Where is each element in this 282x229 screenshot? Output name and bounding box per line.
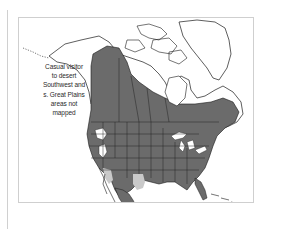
annotation-line: to desert (37, 71, 90, 80)
range-area-secondary-texas (133, 174, 145, 190)
range-map-frame: Casual visitor to desert Southwest and s… (18, 17, 254, 203)
annotation-line: areas not (37, 99, 90, 108)
aleutian-islands (23, 48, 49, 58)
page-divider-line (7, 10, 8, 229)
florida (195, 178, 207, 200)
annotation-line: Casual visitor (37, 62, 90, 71)
annotation-line: mapped (37, 108, 90, 117)
casual-visitor-annotation: Casual visitor to desert Southwest and s… (37, 62, 90, 117)
annotation-line: s. Great Plains (37, 90, 90, 99)
annotation-line: Southwest and (37, 80, 90, 89)
greenland-outline (179, 20, 231, 80)
arctic-islands-outline (125, 24, 187, 64)
caribbean-islands (211, 194, 239, 203)
